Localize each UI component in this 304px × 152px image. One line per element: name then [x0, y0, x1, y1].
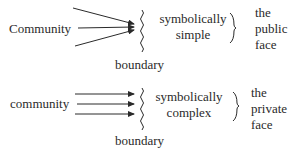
- face-label-lower-2: private: [251, 102, 287, 115]
- wavy-boundary-lower: [141, 88, 144, 130]
- face-label-upper-3: face: [255, 38, 277, 51]
- face-label-upper-2: public: [255, 22, 288, 35]
- face-label-upper-1: the: [255, 6, 271, 19]
- community-label-upper: Community: [9, 22, 71, 35]
- boundary-label-lower: boundary: [115, 134, 164, 147]
- symbolic-label-lower-2: complex: [152, 106, 226, 119]
- brace-lower: [233, 92, 239, 121]
- wavy-boundary-upper: [141, 10, 144, 52]
- parallel-arrows: [75, 94, 134, 114]
- symbolic-label-upper-1: symbolically: [156, 12, 230, 25]
- community-label-lower: community: [10, 97, 69, 110]
- symbolic-label-lower-1: symbolically: [152, 90, 226, 103]
- brace-upper: [230, 13, 236, 43]
- face-label-lower-1: the: [251, 86, 267, 99]
- boundary-label-upper: boundary: [115, 58, 164, 71]
- symbolic-label-upper-2: simple: [156, 28, 230, 41]
- converging-arrows: [73, 8, 134, 46]
- face-label-lower-3: face: [251, 118, 273, 131]
